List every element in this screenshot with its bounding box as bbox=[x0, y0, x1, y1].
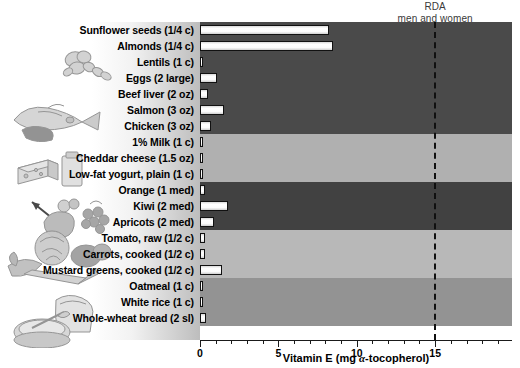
x-tick-minor bbox=[482, 341, 483, 344]
bar-2 bbox=[200, 57, 203, 67]
category-label: Whole-wheat bread (2 sl) bbox=[73, 310, 194, 326]
category-label: Almonds (1/4 c) bbox=[117, 38, 194, 54]
x-axis-title: Vitamin E (mg α-tocopherol) bbox=[200, 352, 512, 364]
x-tick-minor bbox=[325, 341, 326, 344]
bar-12 bbox=[200, 217, 214, 227]
category-label: Kiwi (2 med) bbox=[133, 198, 194, 214]
bar-7 bbox=[200, 137, 203, 147]
bar-13 bbox=[200, 233, 205, 243]
rda-label-line1: RDA bbox=[370, 1, 500, 13]
category-label: Cheddar cheese (1.5 oz) bbox=[76, 150, 194, 166]
category-label: Salmon (3 oz) bbox=[127, 102, 194, 118]
x-tick-minor bbox=[498, 341, 499, 344]
bar-4 bbox=[200, 89, 208, 99]
x-tick-minor bbox=[372, 341, 373, 344]
x-tick-minor bbox=[451, 341, 452, 344]
rda-reference-line bbox=[434, 22, 436, 340]
bar-15 bbox=[200, 265, 222, 275]
category-label: Low-fat yogurt, plain (1 c) bbox=[69, 166, 194, 182]
x-tick-minor bbox=[467, 341, 468, 344]
x-tick-minor bbox=[341, 341, 342, 344]
group-band-dairy bbox=[200, 134, 512, 182]
bar-18 bbox=[200, 313, 206, 323]
bar-17 bbox=[200, 297, 203, 307]
category-label: Chicken (3 oz) bbox=[124, 118, 194, 134]
bar-9 bbox=[200, 169, 203, 179]
bar-3 bbox=[200, 73, 217, 83]
x-axis-title-tail: -tocopherol) bbox=[365, 352, 429, 364]
category-label: Oatmeal (1 c) bbox=[129, 278, 194, 294]
bar-0 bbox=[200, 25, 329, 35]
chart-plot-area bbox=[200, 22, 512, 340]
bar-11 bbox=[200, 201, 228, 211]
bar-16 bbox=[200, 281, 203, 291]
x-tick-minor bbox=[404, 341, 405, 344]
bar-1 bbox=[200, 41, 333, 51]
category-label: Lentils (1 c) bbox=[137, 54, 194, 70]
category-label: Orange (1 med) bbox=[118, 182, 194, 198]
category-label: Beef liver (2 oz) bbox=[118, 86, 194, 102]
group-band-vegetables bbox=[200, 230, 512, 278]
x-tick-minor bbox=[388, 341, 389, 344]
x-axis-title-main: Vitamin E (mg bbox=[283, 352, 359, 364]
rda-annotation: RDA men and women bbox=[370, 1, 500, 24]
bar-14 bbox=[200, 249, 205, 259]
x-tick-minor bbox=[216, 341, 217, 344]
x-tick-minor bbox=[263, 341, 264, 344]
bar-8 bbox=[200, 153, 203, 163]
group-band-grains bbox=[200, 278, 512, 326]
category-label: Tomato, raw (1/2 c) bbox=[102, 230, 194, 246]
category-label: Mustard greens, cooked (1/2 c) bbox=[43, 262, 194, 278]
x-tick-minor bbox=[310, 341, 311, 344]
category-label: White rice (1 c) bbox=[121, 294, 194, 310]
bar-6 bbox=[200, 121, 211, 131]
bar-5 bbox=[200, 105, 224, 115]
category-label: 1% Milk (1 c) bbox=[132, 134, 194, 150]
bar-10 bbox=[200, 185, 205, 195]
x-tick-minor bbox=[294, 341, 295, 344]
category-label: Eggs (2 large) bbox=[126, 70, 194, 86]
x-tick-minor bbox=[419, 341, 420, 344]
group-band-fruit bbox=[200, 182, 512, 230]
x-tick-minor bbox=[231, 341, 232, 344]
x-tick-minor bbox=[247, 341, 248, 344]
category-label-list: Sunflower seeds (1/4 c)Almonds (1/4 c)Le… bbox=[0, 22, 197, 340]
group-band-nuts-seeds-protein bbox=[200, 22, 512, 134]
category-label: Apricots (2 med) bbox=[113, 214, 194, 230]
category-label: Carrots, cooked (1/2 c) bbox=[83, 246, 194, 262]
category-label: Sunflower seeds (1/4 c) bbox=[80, 22, 194, 38]
